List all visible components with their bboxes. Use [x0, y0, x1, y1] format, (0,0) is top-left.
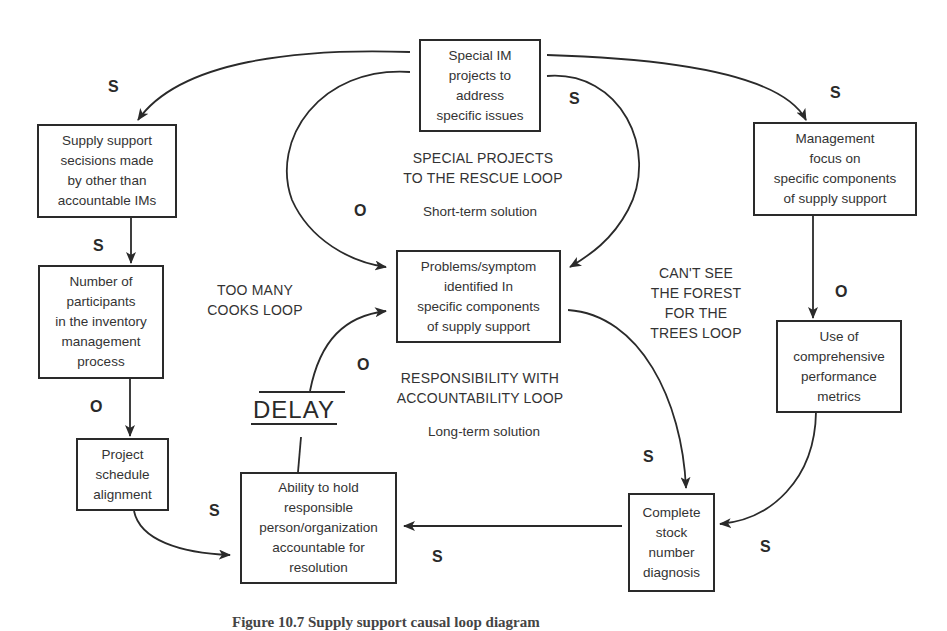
loop-label-too-many-cooks: TOO MANY COOKS LOOP	[190, 280, 320, 320]
polarity-participants-to-schedule: O	[90, 398, 102, 416]
edge-metrics-to-diagnosis	[720, 412, 816, 524]
loop-label-cant-see-forest: CAN'T SEE THE FOREST FOR THE TREES LOOP	[640, 263, 752, 343]
node-special-im-projects: Special IM projects to address specific …	[419, 39, 541, 132]
edge-delay-to-problems	[310, 311, 386, 391]
polarity-supply-to-participants: S	[93, 237, 104, 255]
edge-special-to-management	[547, 55, 806, 120]
node-problems-identified: Problems/symptom identified In specific …	[396, 250, 561, 343]
edge-special-to-supply	[138, 51, 410, 120]
node-management-focus: Management focus on specific components …	[753, 122, 917, 216]
loop-label-special-projects: SPECIAL PROJECTS TO THE RESCUE LOOP	[383, 148, 583, 188]
delay-marker: DELAY	[251, 397, 337, 425]
polarity-problems-to-diagnosis: S	[643, 448, 654, 466]
polarity-schedule-to-accountability: S	[209, 502, 220, 520]
polarity-special-to-supply: S	[108, 78, 119, 96]
polarity-accountability-to-problems: O	[357, 356, 369, 374]
loop-label-responsibility: RESPONSIBILITY WITH ACCOUNTABILITY LOOP	[380, 368, 580, 408]
node-supply-support-decisions: Supply support secisions made by other t…	[37, 124, 177, 218]
polarity-special-loop-o: O	[354, 202, 366, 220]
polarity-special-to-management: S	[830, 84, 841, 102]
node-ability-to-hold-accountable: Ability to hold responsible person/organ…	[240, 472, 397, 584]
polarity-management-to-metrics: O	[835, 283, 847, 301]
node-performance-metrics: Use of comprehensive performance metrics	[776, 320, 902, 413]
polarity-diagnosis-to-accountability: S	[432, 548, 443, 566]
figure-caption: Figure 10.7 Supply support causal loop d…	[232, 614, 540, 631]
node-number-of-participants: Number of participants in the inventory …	[38, 265, 164, 379]
note-short-term-solution: Short-term solution	[410, 204, 550, 219]
node-project-schedule-alignment: Project schedule alignment	[76, 438, 169, 511]
polarity-metrics-to-diagnosis: S	[760, 538, 771, 556]
edge-accountability-to-delay	[298, 437, 301, 472]
polarity-special-to-problems: S	[569, 90, 580, 108]
note-long-term-solution: Long-term solution	[414, 424, 554, 439]
node-stock-number-diagnosis: Complete stock number diagnosis	[628, 493, 715, 592]
